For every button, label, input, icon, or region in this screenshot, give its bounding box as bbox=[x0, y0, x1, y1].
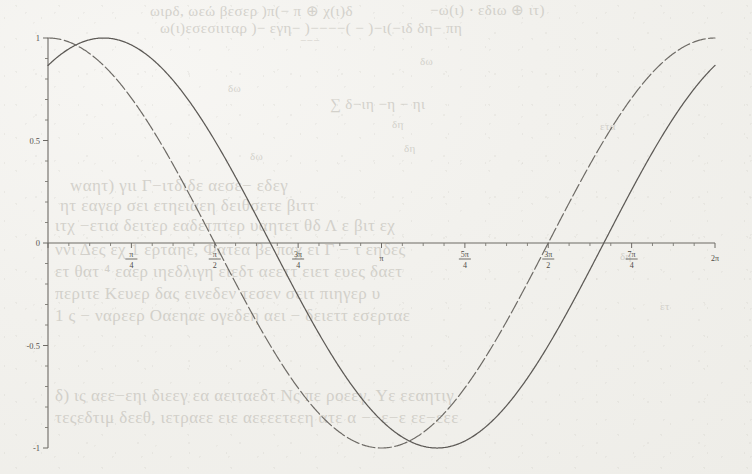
y-tick-label: 0 bbox=[36, 238, 40, 248]
scanned-page: ωιρδ, ωεώ βεσερ )π(− π ⊕ χ(ι)δ−ω(ι) ⋅ εδ… bbox=[0, 0, 752, 474]
x-tick-label-numerator: π bbox=[213, 250, 217, 259]
trigonometric-plot: 10.50-0.5-1π4π23π4π5π43π27π42π bbox=[0, 0, 752, 474]
x-tick-label: 2π bbox=[711, 254, 719, 263]
x-tick-label-denominator: 2 bbox=[213, 261, 217, 270]
y-tick-label: -1 bbox=[33, 443, 40, 453]
x-tick-label-numerator: 5π bbox=[461, 250, 469, 259]
x-tick-label-denominator: 4 bbox=[463, 261, 467, 270]
x-tick-label-denominator: 4 bbox=[129, 261, 133, 270]
x-tick-label-numerator: 3π bbox=[294, 250, 302, 259]
y-tick-label: 1 bbox=[36, 33, 40, 43]
x-tick-label-denominator: 2 bbox=[546, 261, 550, 270]
x-tick-label-numerator: π bbox=[129, 250, 133, 259]
x-tick-label-denominator: 4 bbox=[296, 261, 300, 270]
x-tick-label-denominator: 4 bbox=[630, 261, 634, 270]
x-tick-label: π bbox=[379, 254, 383, 263]
x-tick-label-numerator: 7π bbox=[628, 250, 636, 259]
x-tick-label-numerator: 3π bbox=[544, 250, 552, 259]
y-tick-label: -0.5 bbox=[27, 341, 40, 351]
y-tick-label: 0.5 bbox=[29, 136, 40, 146]
